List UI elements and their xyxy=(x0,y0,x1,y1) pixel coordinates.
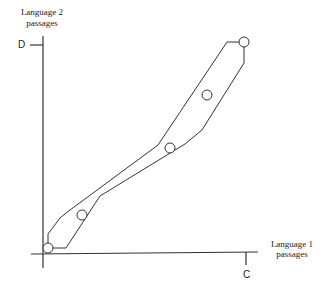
x-tick-label: C xyxy=(243,269,250,280)
y-axis-label-line1: Language 2 xyxy=(21,7,63,17)
y-axis-label-line2: passages xyxy=(26,18,58,28)
x-axis xyxy=(31,252,258,254)
data-point-1 xyxy=(43,243,53,253)
y-tick-label: D xyxy=(18,39,25,50)
envelope-upper-edge xyxy=(48,42,239,243)
data-point-3 xyxy=(165,143,175,153)
data-point-4 xyxy=(202,90,212,100)
data-point-5 xyxy=(239,37,249,47)
x-axis-label-line2: passages xyxy=(276,249,308,259)
diagram-canvas: D Language 2 passages C Language 1 passa… xyxy=(0,0,328,293)
data-point-2 xyxy=(77,210,87,220)
x-axis-label-line1: Language 1 xyxy=(271,239,313,249)
